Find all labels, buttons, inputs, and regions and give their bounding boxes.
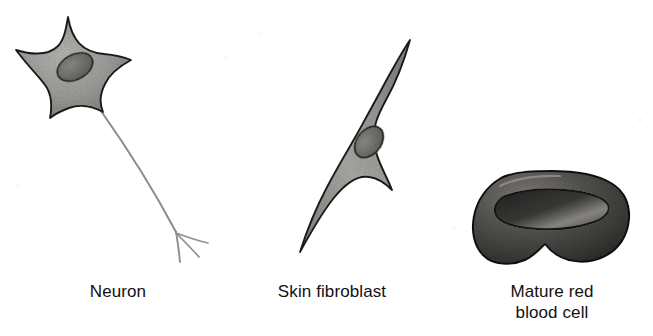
skin-fibroblast-cell: [300, 40, 410, 252]
rbc-central-depression: [495, 189, 609, 229]
neuron-cell-body: [16, 17, 131, 118]
cell-label-neuron: Neuron: [28, 281, 208, 302]
red-blood-cell: [473, 171, 629, 264]
cell-label-skin-fibroblast: Skin fibroblast: [222, 281, 442, 302]
neuron-cell: [16, 17, 208, 262]
cell-label-mature-red-blood-cell: Mature red blood cell: [462, 281, 642, 323]
neuron-axon: [101, 111, 208, 262]
